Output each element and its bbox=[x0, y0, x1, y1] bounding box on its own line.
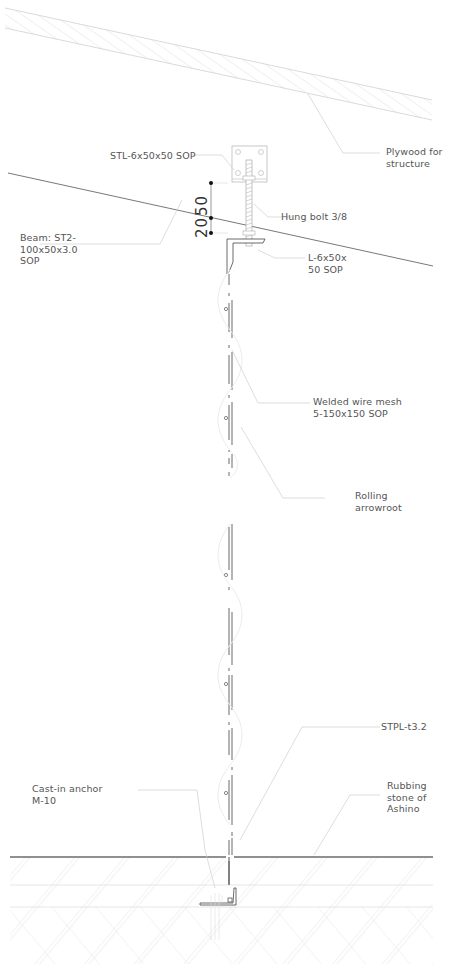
section-drawing bbox=[0, 0, 450, 964]
label-anchor: Cast-in anchor M-10 bbox=[32, 783, 102, 806]
dimension-marks bbox=[209, 181, 228, 235]
mesh-clips bbox=[224, 307, 227, 794]
dimension-50: 50 bbox=[193, 195, 211, 216]
rolling-arrowroot bbox=[218, 270, 242, 825]
label-stl-plate: STL-6x50x50 SOP bbox=[110, 150, 196, 162]
wire-mesh-upper bbox=[229, 274, 232, 476]
label-angle: L-6x50x 50 SOP bbox=[308, 252, 347, 275]
label-stpl: STPL-t3.2 bbox=[381, 721, 427, 733]
label-rubbing-stone: Rubbing stone of Ashino bbox=[387, 780, 427, 815]
dimension-20: 20 bbox=[193, 217, 211, 238]
floor-section bbox=[10, 855, 433, 964]
plywood-structure bbox=[5, 8, 432, 120]
label-hung-bolt: Hung bolt 3/8 bbox=[281, 211, 347, 223]
label-plywood: Plywood for structure bbox=[386, 146, 443, 169]
label-rolling-arrowroot: Rolling arrowroot bbox=[355, 490, 402, 513]
label-wire-mesh: Welded wire mesh 5-150x150 SOP bbox=[313, 396, 402, 419]
label-beam: Beam: ST2- 100x50x3.0 SOP bbox=[20, 232, 78, 267]
